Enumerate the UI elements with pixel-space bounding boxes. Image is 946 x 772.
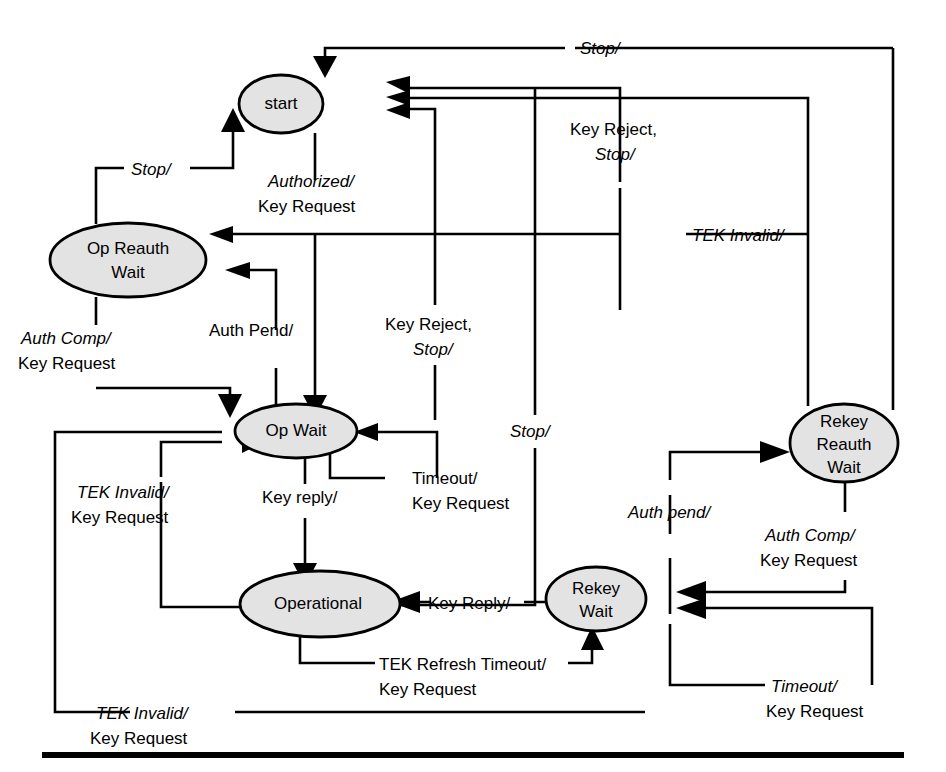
label-stop-opreauth: Stop/ [131, 160, 173, 179]
label-timeout-rekey-line2: Key Request [766, 702, 864, 721]
state-start[interactable]: start [239, 75, 323, 133]
label-key-reject-b-line1: Key Reject, [385, 315, 472, 334]
state-rekey-reauth-wait-label-line3: Wait [827, 458, 861, 477]
arrowhead-auth-comp-opreauth [218, 394, 242, 418]
edge-tek-invalid-mid [161, 442, 247, 607]
arrowhead-stop-top [313, 56, 337, 78]
label-stop-top: Stop/ [580, 39, 622, 58]
label-key-reject-a-line1: Key Reject, [570, 120, 657, 139]
state-op-reauth-wait-ellipse[interactable] [50, 223, 206, 297]
state-rekey-wait-label-line1: Rekey [572, 579, 621, 598]
state-rekey-reauth-wait-label-line2: Reauth [817, 435, 872, 454]
label-tek-refresh-line1: TEK Refresh Timeout/ [379, 655, 547, 674]
edge-key-reject-b [404, 109, 435, 420]
arrow-heads [209, 56, 790, 650]
state-op-reauth-wait[interactable]: Op Reauth Wait [50, 223, 206, 297]
state-operational[interactable]: Operational [240, 571, 400, 637]
label-auth-pend-rekey: Auth pend/ [627, 503, 713, 522]
edge-labels: Stop/ Authorized/ Key Request Stop/ Key … [18, 39, 864, 748]
label-auth-pend-opwait: Auth Pend/ [209, 321, 293, 340]
label-auth-comp-line2: Key Request [18, 354, 116, 373]
label-auth-comp-rekey-line1: Auth Comp/ [764, 526, 857, 545]
edge-auth-comp-opreauth [96, 297, 230, 398]
label-auth-comp-rekey-line2: Key Request [760, 551, 858, 570]
label-key-reply-down: Key reply/ [262, 488, 338, 507]
arrowhead-key-reject-b [386, 102, 410, 119]
label-key-reject-a-line2: Stop/ [595, 145, 637, 164]
state-start-label: start [264, 94, 297, 113]
label-key-reply-rekey: Key Reply/ [428, 594, 510, 613]
state-op-reauth-wait-label-line2: Wait [111, 263, 145, 282]
state-operational-label: Operational [274, 594, 362, 613]
state-op-reauth-wait-label-line1: Op Reauth [87, 239, 169, 258]
arrowhead-auth-pend-rekey [760, 441, 790, 463]
label-tek-refresh-line2: Key Request [379, 680, 477, 699]
label-tek-invalid-mid-line2: Key Request [71, 508, 169, 527]
state-rekey-wait[interactable]: Rekey Wait [546, 567, 646, 631]
label-tek-invalid-bottom-line2: Key Request [90, 729, 188, 748]
bottom-divider-rule [42, 752, 904, 758]
state-rekey-wait-label-line2: Wait [579, 602, 613, 621]
label-timeout-opwait-line2: Key Request [412, 494, 510, 513]
state-op-wait-label: Op Wait [266, 421, 327, 440]
label-authorized-line1: Authorized/ [267, 172, 356, 191]
label-stop-mid: Stop/ [510, 422, 552, 441]
label-key-reject-b-line2: Stop/ [413, 340, 455, 359]
label-timeout-opwait-line1: Timeout/ [412, 469, 478, 488]
arrowhead-tek-invalid-right [209, 226, 233, 243]
arrowhead-timeout-rekey [676, 598, 706, 619]
label-timeout-rekey-line1: Timeout/ [771, 677, 839, 696]
state-op-wait[interactable]: Op Wait [235, 404, 357, 458]
diagram-canvas: start Op Reauth Wait Op Wait Operational… [0, 0, 946, 772]
state-machine-diagram: start Op Reauth Wait Op Wait Operational… [0, 0, 946, 772]
state-rekey-reauth-wait[interactable]: Rekey Reauth Wait [790, 404, 898, 482]
state-rekey-reauth-wait-label-line1: Rekey [820, 412, 869, 431]
label-tek-invalid-bottom-line1: TEK Invalid/ [96, 704, 190, 723]
label-tek-invalid-right: TEK Invalid/ [692, 226, 786, 245]
edge-timeout-rekey [670, 608, 872, 685]
label-authorized-line2: Key Request [258, 197, 356, 216]
arrowhead-auth-pend-opwait [225, 262, 250, 279]
label-auth-comp-line1: Auth Comp/ [20, 329, 113, 348]
label-tek-invalid-mid-line1: TEK Invalid/ [77, 483, 171, 502]
